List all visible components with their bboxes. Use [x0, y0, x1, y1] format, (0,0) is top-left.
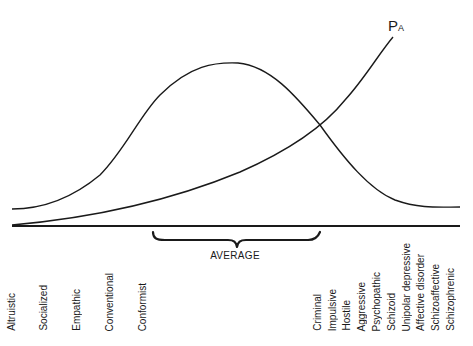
trait-label-schizoaffective: Schizoaffective — [430, 264, 442, 331]
average-brace — [153, 232, 320, 247]
trait-label-socialized: Socialized — [38, 285, 50, 331]
trait-label-psychopathic: Psychopathic — [371, 272, 383, 331]
trait-label-impulsive: Impulsive — [327, 289, 339, 331]
trait-label-criminal: Criminal — [312, 294, 324, 331]
trait-label-conventional: Conventional — [104, 273, 116, 331]
trait-label-hostile: Hostile — [341, 300, 353, 331]
pa-curve — [12, 37, 393, 225]
trait-label-unipolar-depressive: Unipolar depressive — [401, 243, 413, 331]
average-label: AVERAGE — [195, 250, 275, 261]
trait-label-schizoid: Schizoid — [386, 293, 398, 331]
pa-label-main: P — [388, 17, 398, 34]
trait-label-altruistic: Altruistic — [6, 293, 18, 331]
trait-label-empathic: Empathic — [71, 289, 83, 331]
pa-label-subscript: A — [398, 23, 404, 33]
trait-label-schizophrenic: Schizophrenic — [445, 268, 457, 331]
trait-label-aggressive: Aggressive — [356, 282, 368, 331]
trait-label-affective-disorder: Affective disorder — [415, 254, 427, 331]
bell-curve — [12, 63, 460, 209]
trait-label-conformist: Conformist — [137, 283, 149, 331]
pa-curve-label: PA — [388, 18, 404, 36]
